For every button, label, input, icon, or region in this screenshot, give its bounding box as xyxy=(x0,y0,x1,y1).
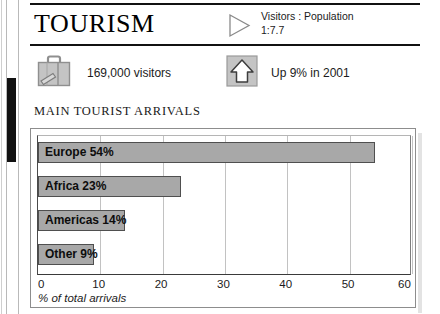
stat-growth: Up 9% in 2001 xyxy=(226,55,350,91)
page-title: TOURISM xyxy=(34,9,155,39)
header-band: TOURISM Visitors : Population 1:7.7 xyxy=(30,3,420,46)
chart-heading: MAIN TOURIST ARRIVALS xyxy=(34,104,201,119)
x-tick-label: 20 xyxy=(155,277,168,291)
stat-growth-label: Up 9% in 2001 xyxy=(271,66,350,80)
bars-group: Europe 54%Africa 23%Americas 14%Other 9% xyxy=(38,136,410,274)
stat-visitors-label: 169,000 visitors xyxy=(87,66,171,80)
x-axis-title: % of total arrivals xyxy=(38,292,126,304)
x-tick-label: 40 xyxy=(279,277,292,291)
bar-label: Africa 23% xyxy=(45,176,106,197)
x-tick-label: 0 xyxy=(38,277,44,291)
x-tick-label: 60 xyxy=(398,277,411,291)
chart-shadow xyxy=(418,133,422,313)
page-edge-marker xyxy=(7,78,16,162)
ratio-text: Visitors : Population 1:7.7 xyxy=(261,10,354,37)
x-axis-ticks: 0102030405060 xyxy=(37,277,411,291)
stats-row: 169,000 visitors Up 9% in 2001 xyxy=(30,53,420,97)
x-tick-label: 50 xyxy=(342,277,355,291)
bar-row[interactable]: Africa 23% xyxy=(38,176,412,197)
x-tick-label: 30 xyxy=(217,277,230,291)
bar-label: Americas 14% xyxy=(45,210,126,231)
bar-label: Europe 54% xyxy=(45,142,114,163)
plot-area: Europe 54%Africa 23%Americas 14%Other 9% xyxy=(37,135,411,275)
bar-row[interactable]: Europe 54% xyxy=(38,142,412,163)
triangle-right-icon xyxy=(228,13,252,42)
stat-visitors: 169,000 visitors xyxy=(34,53,171,93)
bar-row[interactable]: Other 9% xyxy=(38,244,412,265)
x-tick-label: 10 xyxy=(92,277,105,291)
bar-row[interactable]: Americas 14% xyxy=(38,210,412,231)
page-edge-rule xyxy=(1,0,2,314)
content-column: TOURISM Visitors : Population 1:7.7 xyxy=(30,0,422,314)
arrow-up-box-icon xyxy=(226,55,258,91)
suitcase-icon xyxy=(34,53,74,93)
chart-frame: Europe 54%Africa 23%Americas 14%Other 9%… xyxy=(30,128,416,308)
gridline xyxy=(412,136,413,274)
visitors-population-ratio: Visitors : Population 1:7.7 xyxy=(228,10,354,42)
bar-label: Other 9% xyxy=(45,244,98,265)
